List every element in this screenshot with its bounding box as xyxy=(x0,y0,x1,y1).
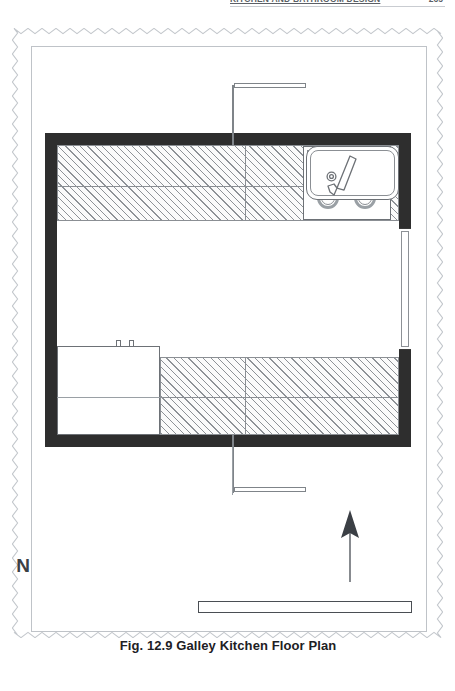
center-axis-line xyxy=(232,447,233,495)
range-knob-1 xyxy=(116,340,121,347)
running-head-page-number: 265 xyxy=(429,0,443,4)
counter-bottom xyxy=(160,357,399,435)
running-head: KITCHEN AND BATHROOM DESIGN 265 xyxy=(230,0,445,10)
counter-bottom-joint xyxy=(245,357,246,435)
scale-bar-track xyxy=(198,601,412,613)
range-divider xyxy=(57,397,160,398)
running-head-title: KITCHEN AND BATHROOM DESIGN xyxy=(230,0,415,4)
scale-bar xyxy=(198,601,412,623)
running-head-rule xyxy=(230,6,445,7)
window-right xyxy=(399,228,411,350)
floor-plan xyxy=(45,133,411,447)
wall-bottom xyxy=(45,435,411,447)
figure-caption: Fig. 12.9 Galley Kitchen Floor Plan xyxy=(31,638,425,653)
faucet-icon xyxy=(300,138,370,208)
page-canvas: KITCHEN AND BATHROOM DESIGN 265 xyxy=(0,0,455,691)
range-knob-2 xyxy=(129,340,134,347)
counter-top-joint xyxy=(245,145,246,221)
north-arrow-label: N xyxy=(0,556,46,575)
wall-left xyxy=(45,133,57,447)
north-arrow xyxy=(327,508,373,584)
range xyxy=(57,346,160,435)
door-bottom-leaf xyxy=(234,487,306,492)
door-top-leaf xyxy=(234,83,306,88)
door-top-swing-line xyxy=(232,85,234,145)
window-pane xyxy=(401,231,409,347)
